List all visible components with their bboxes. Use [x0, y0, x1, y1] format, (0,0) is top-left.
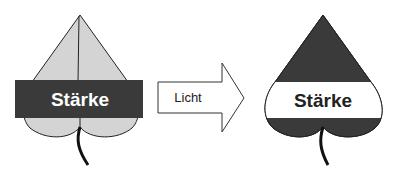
right-leaf-stem [321, 127, 328, 165]
arrow-label: Licht [174, 90, 202, 105]
left-leaf: Stärke [15, 15, 143, 165]
left-leaf-blade [23, 15, 138, 137]
starch-light-diagram: Stärke Licht Stärke [0, 0, 397, 177]
left-starch-label: Stärke [51, 89, 109, 110]
right-starch-label: Stärke [294, 90, 352, 111]
light-arrow: Licht [158, 63, 244, 132]
right-leaf-blade [265, 15, 382, 137]
right-leaf: Stärke [255, 15, 395, 165]
